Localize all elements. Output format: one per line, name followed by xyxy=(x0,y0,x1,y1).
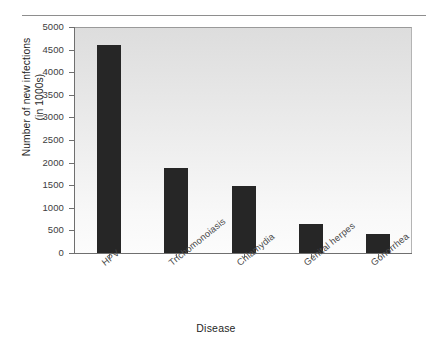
top-divider-rule xyxy=(22,15,426,16)
bar xyxy=(164,168,188,253)
y-axis-tick xyxy=(69,230,75,231)
y-axis-tick xyxy=(69,140,75,141)
y-axis-title-line-1: Number of new infections xyxy=(21,38,32,157)
y-axis-title: Number of new infections (in 1000s) xyxy=(20,2,46,192)
y-axis-tick-label: 500 xyxy=(20,225,64,235)
y-axis-tick xyxy=(69,117,75,118)
y-axis-tick xyxy=(69,163,75,164)
bar-chart-figure: 5000450040003500300025002000150010005000… xyxy=(0,0,432,351)
y-axis-title-line-2: (in 1000s) xyxy=(33,2,46,192)
bar xyxy=(232,186,256,253)
bar xyxy=(97,45,121,253)
y-axis-tick xyxy=(69,185,75,186)
y-axis-tick xyxy=(69,50,75,51)
y-axis-tick xyxy=(69,208,75,209)
y-axis-tick xyxy=(69,253,75,254)
y-axis-tick xyxy=(69,27,75,28)
y-axis-tick xyxy=(69,95,75,96)
x-axis-title: Disease xyxy=(0,322,432,334)
y-axis-tick-label: 0 xyxy=(20,248,64,258)
y-axis-tick-label: 1000 xyxy=(20,203,64,213)
y-axis-tick xyxy=(69,72,75,73)
